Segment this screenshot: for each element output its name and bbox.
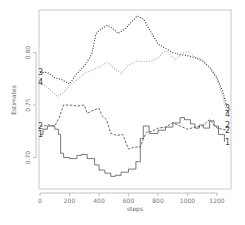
- x-tick-label: 800: [152, 197, 164, 204]
- line-end-labels: 342134221: [38, 68, 230, 146]
- y-axis: 0.700.750.80: [24, 46, 36, 165]
- series-3-line: [40, 16, 227, 108]
- series-layer: [40, 16, 227, 177]
- right-line-label: 4: [225, 110, 230, 119]
- x-axis: 020040060080010001200: [38, 193, 225, 204]
- y-tick-label: 0.70: [24, 151, 31, 165]
- x-axis-title: steps: [127, 205, 143, 213]
- x-tick-label: 200: [64, 197, 76, 204]
- x-tick-label: 0: [38, 197, 42, 204]
- left-line-label: 1: [38, 130, 43, 139]
- left-line-label: 3: [38, 68, 43, 77]
- x-tick-label: 400: [93, 197, 105, 204]
- y-axis-title: Estimates: [10, 85, 17, 115]
- right-line-label: 2: [225, 126, 230, 135]
- line-chart: 020040060080010001200 0.700.750.80 34213…: [0, 0, 245, 225]
- x-tick-label: 1200: [209, 197, 224, 204]
- plot-frame: [39, 10, 231, 189]
- y-tick-label: 0.75: [24, 98, 31, 112]
- x-tick-label: 1000: [180, 197, 195, 204]
- y-tick-label: 0.80: [24, 46, 31, 60]
- x-tick-label: 600: [123, 197, 135, 204]
- right-line-label: 1: [225, 138, 230, 147]
- left-line-label: 4: [38, 78, 43, 87]
- series-1-line: [40, 118, 224, 177]
